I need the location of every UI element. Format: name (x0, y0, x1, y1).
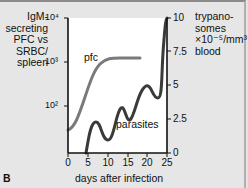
chart-svg (0, 0, 248, 188)
x-axis-label: days after infection (75, 172, 163, 184)
panel-label: B (3, 172, 11, 184)
pfc-curve-label: pfc (84, 51, 98, 63)
parasites-curve-label: parasites (116, 118, 159, 130)
parasites-line (86, 18, 167, 153)
